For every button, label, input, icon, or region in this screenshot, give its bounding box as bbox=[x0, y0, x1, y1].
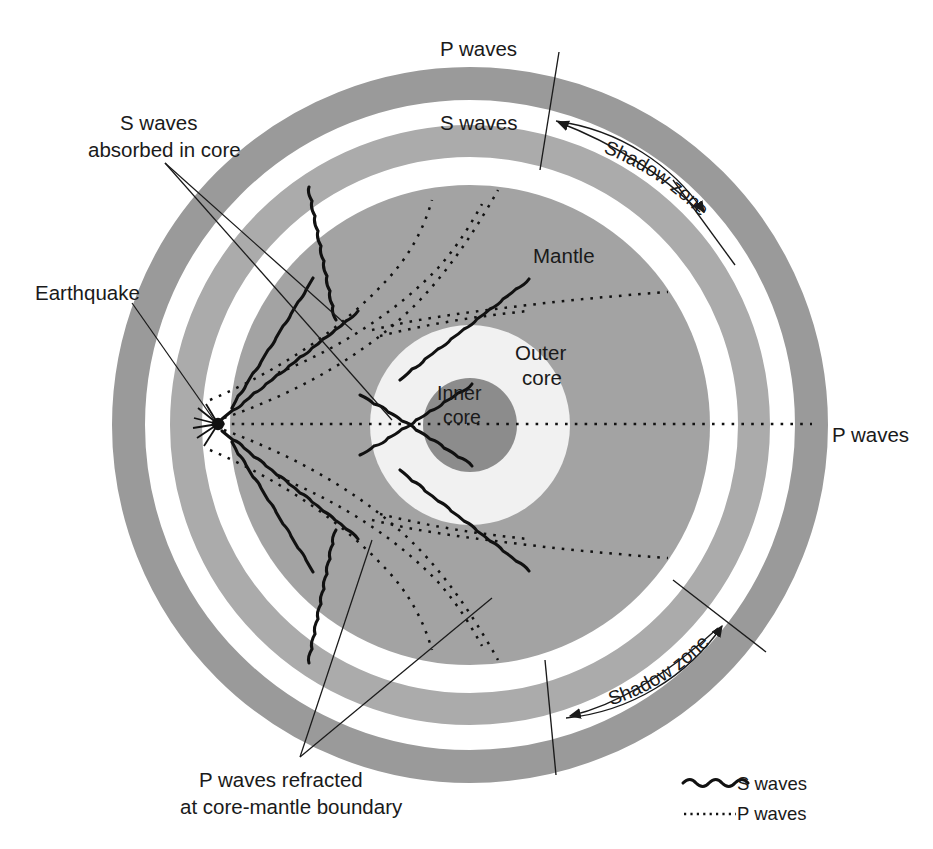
label-p-waves-top: P waves bbox=[440, 37, 517, 60]
legend-label-p-waves: P waves bbox=[737, 803, 807, 824]
label-inner-core-line2: core bbox=[443, 406, 481, 428]
label-s-waves-top: S waves bbox=[440, 111, 517, 134]
label-inner-core-line1: Inner bbox=[437, 382, 482, 404]
label-mantle: Mantle bbox=[533, 244, 595, 267]
legend: S waves P waves bbox=[683, 773, 807, 824]
label-outer-core-line2: core bbox=[522, 366, 562, 389]
label-earthquake: Earthquake bbox=[35, 281, 140, 304]
label-outer-core-line1: Outer bbox=[515, 341, 566, 364]
diagram-canvas: P waves S waves P waves Mantle Outer cor… bbox=[0, 0, 933, 849]
label-s-absorbed-line2: absorbed in core bbox=[88, 138, 241, 161]
earth-cross-section-svg: P waves S waves P waves Mantle Outer cor… bbox=[0, 0, 933, 849]
label-s-absorbed-line1: S waves bbox=[120, 111, 197, 134]
label-p-waves-right: P waves bbox=[832, 423, 909, 446]
legend-label-s-waves: S waves bbox=[737, 773, 807, 794]
label-p-refracted-line1: P waves refracted bbox=[199, 768, 363, 791]
label-p-refracted-line2: at core-mantle boundary bbox=[180, 795, 403, 818]
